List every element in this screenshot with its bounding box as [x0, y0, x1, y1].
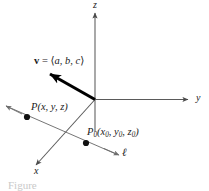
vector-v-label: v = ⟨a, b, c⟩ — [34, 56, 84, 67]
point-P0-dot — [83, 140, 89, 146]
paren-close-icon: ) — [64, 101, 68, 112]
figure-container: z y x v = ⟨a, b, c⟩ P(x, y, z) P0(x0, y0… — [0, 0, 209, 191]
point-P-dot — [24, 114, 30, 120]
caption-strip: Figure — [0, 175, 209, 191]
z-axis-label: z — [93, 0, 97, 10]
y-axis-label: y — [196, 93, 200, 103]
point-P0-subscript: 0 — [93, 131, 97, 139]
coordinate-system-diagram — [0, 0, 209, 191]
point-P0-label: P0(x0, y0, z0) — [87, 127, 139, 138]
figure-caption: Figure — [8, 179, 37, 191]
vector-v-shaft — [50, 74, 95, 100]
point-P-label: P(x, y, z) — [31, 102, 68, 113]
paren-close-icon: ) — [135, 126, 139, 137]
line-ell-right-arrow-segment — [104, 149, 119, 156]
direction-vector-arrow — [50, 74, 95, 100]
line-ell-label: ℓ — [122, 147, 127, 158]
point-P0-coord-y: y — [114, 126, 119, 137]
angle-bracket-close-icon: ⟩ — [80, 55, 84, 66]
point-P0-coord-z-subscript: 0 — [132, 131, 136, 139]
vector-equals-sign: = — [39, 55, 50, 66]
point-P0-coord-y-subscript: 0 — [119, 131, 123, 139]
point-P-coordinates: x, y, z — [41, 101, 64, 112]
point-P0-coord-x-subscript: 0 — [105, 131, 109, 139]
vector-components: a, b, c — [55, 55, 81, 66]
